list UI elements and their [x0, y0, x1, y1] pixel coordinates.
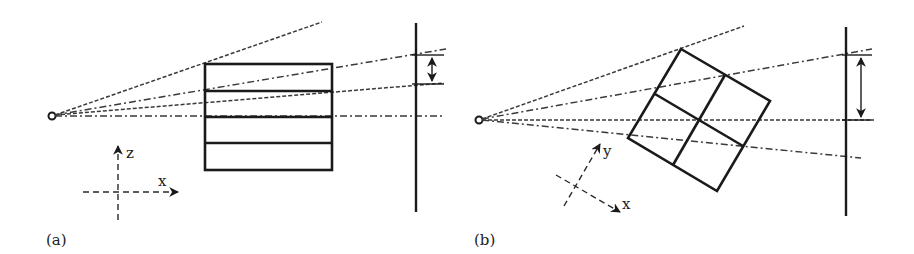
ray-a-upper	[55, 49, 446, 115]
axis-label-y: y	[602, 142, 612, 160]
axis-label-x-a: x	[158, 172, 167, 190]
panel-a: z x (a)	[46, 22, 446, 249]
ray-b-top	[482, 26, 744, 119]
source-point-a	[49, 113, 56, 120]
panel-label-b: (b)	[474, 231, 495, 249]
axis-label-x-b: x	[622, 195, 631, 213]
ray-b-lower	[482, 120, 861, 158]
figure: z x (a) y x (b)	[0, 0, 914, 254]
ray-a-top	[55, 22, 322, 115]
axis-label-z: z	[126, 144, 134, 162]
panel-label-a: (a)	[46, 231, 67, 249]
ray-a-mid	[55, 83, 444, 115]
axis-x-b	[556, 175, 620, 212]
panel-b: y x (b)	[474, 26, 874, 249]
source-point-b	[476, 117, 483, 124]
